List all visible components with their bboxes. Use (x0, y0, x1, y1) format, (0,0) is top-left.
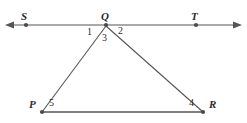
arrowhead-right-icon (233, 22, 242, 29)
geometry-figure: S Q T P R 1 2 3 4 5 (0, 0, 247, 123)
vertex-dot-T (194, 23, 198, 27)
point-label-T: T (191, 11, 198, 22)
angle-label-4: 4 (189, 98, 194, 108)
angle-label-2: 2 (118, 26, 123, 36)
vertex-dot-P (40, 110, 44, 114)
angle-label-1: 1 (87, 27, 92, 37)
angle-label-3: 3 (102, 33, 107, 43)
triangle-PQR (42, 26, 203, 112)
line-ST (5, 22, 242, 29)
point-label-Q: Q (101, 11, 109, 22)
point-label-R: R (209, 99, 216, 110)
vertex-dot-S (24, 23, 28, 27)
arrowhead-left-icon (5, 22, 14, 29)
point-label-S: S (21, 11, 27, 22)
vertex-dot-R (201, 110, 205, 114)
vertex-dot-Q (104, 23, 108, 27)
angle-label-5: 5 (49, 98, 54, 108)
point-label-P: P (29, 99, 36, 110)
